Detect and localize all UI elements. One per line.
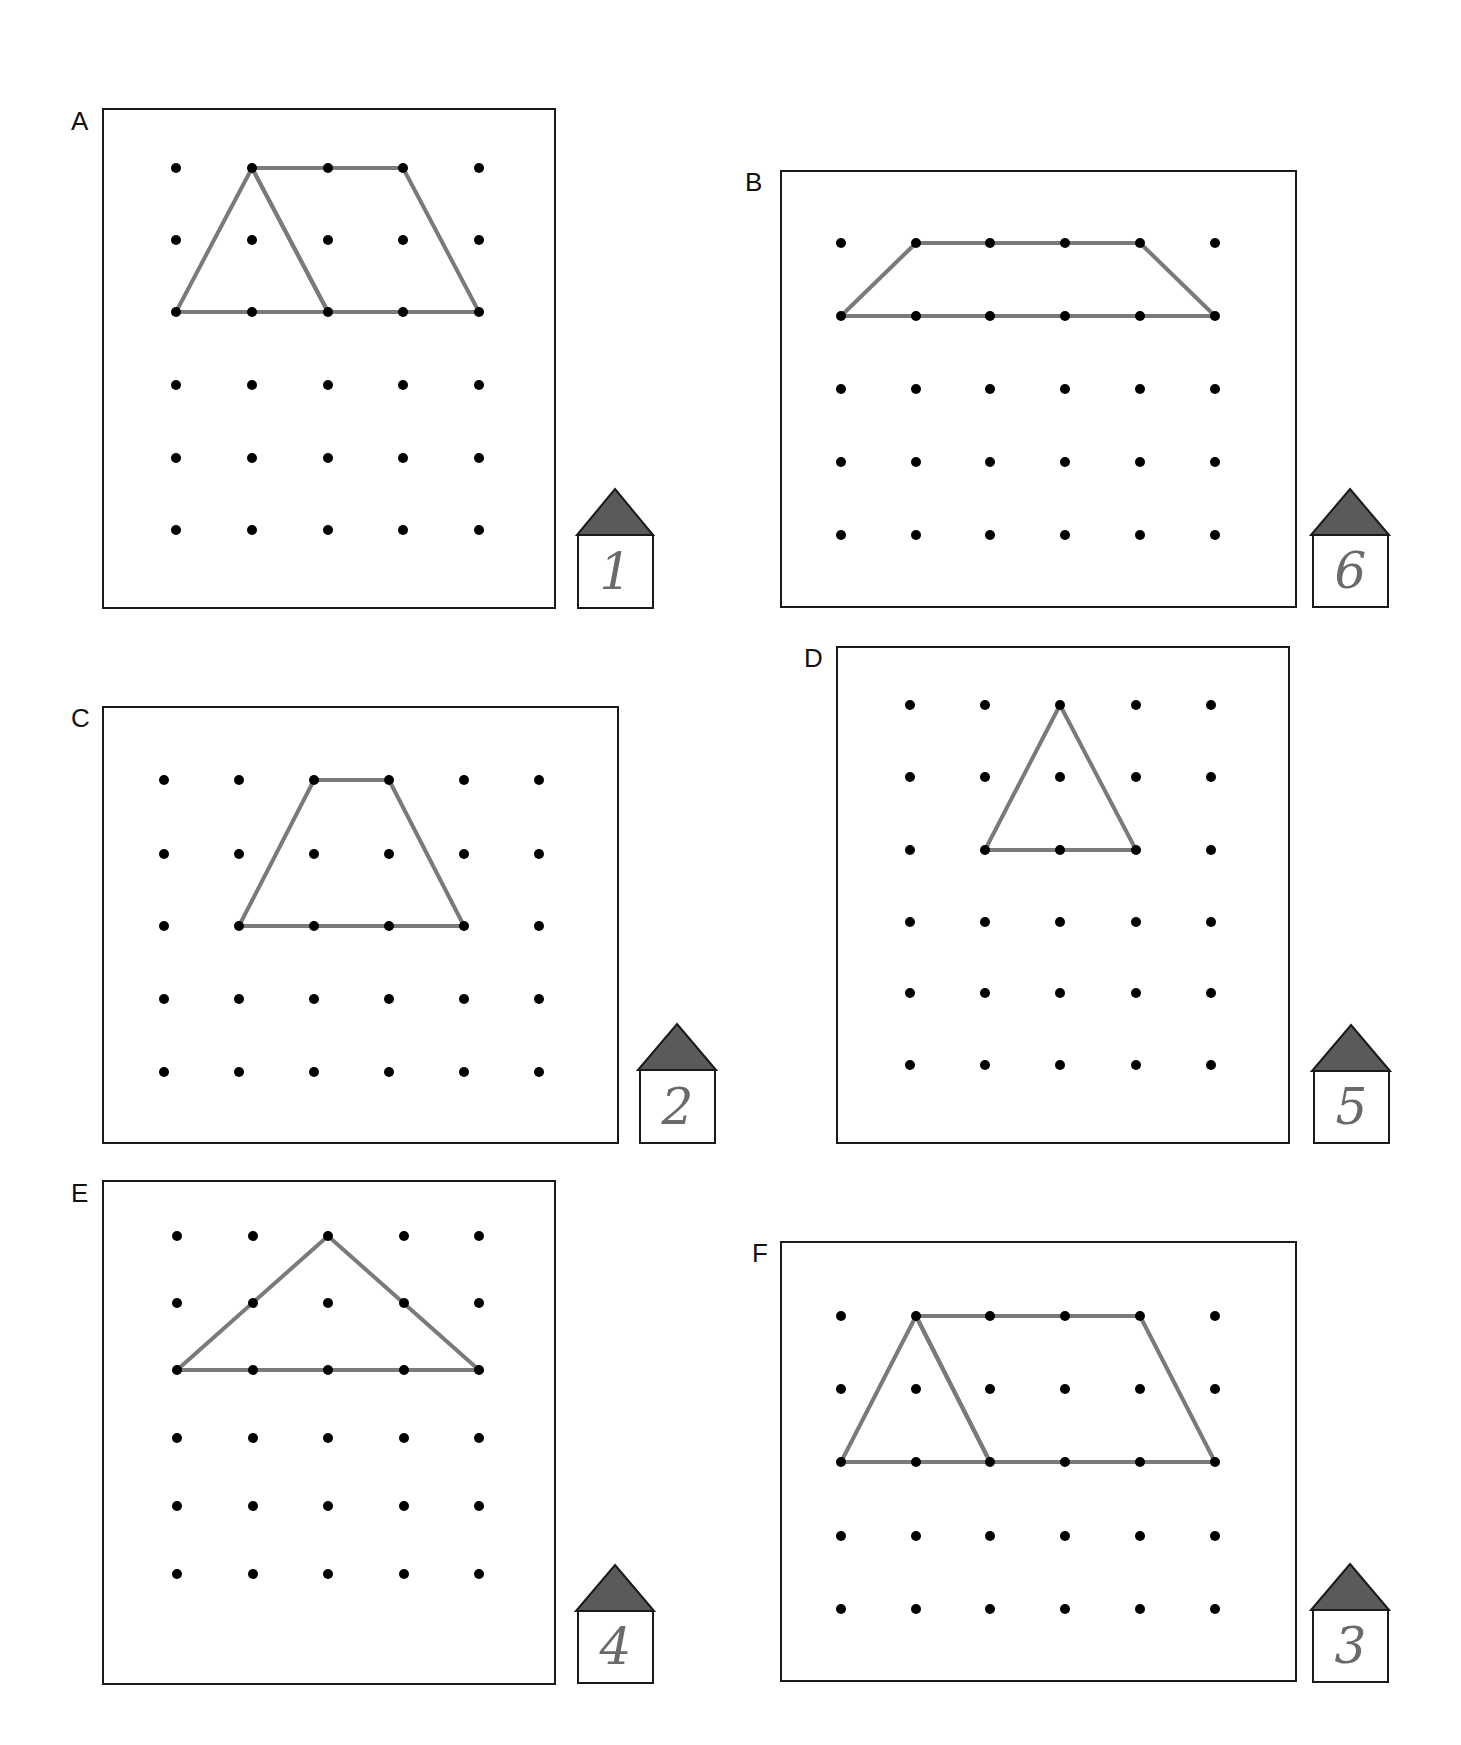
roof-icon	[1309, 487, 1391, 537]
answer-number-e: 4	[600, 1622, 632, 1672]
answer-box-b[interactable]: 6	[1312, 534, 1389, 608]
geoboard-b	[780, 170, 1297, 608]
geoboard-c	[102, 706, 619, 1144]
answer-number-f: 3	[1335, 1621, 1367, 1671]
roof-icon	[575, 487, 655, 537]
geoboard-e	[102, 1180, 556, 1685]
answer-house-f[interactable]: 3	[1309, 1562, 1391, 1683]
geoboard-d	[836, 646, 1290, 1144]
answer-house-c[interactable]: 2	[636, 1022, 718, 1144]
panel-label-d: D	[804, 643, 823, 674]
answer-house-a[interactable]: 1	[575, 487, 655, 609]
answer-number-b: 6	[1335, 546, 1367, 596]
panel-label-c: C	[71, 703, 90, 734]
answer-box-d[interactable]: 5	[1313, 1070, 1390, 1144]
answer-box-f[interactable]: 3	[1312, 1609, 1389, 1683]
roof-icon	[574, 1563, 656, 1613]
geoboard-a	[102, 108, 556, 609]
panel-label-f: F	[752, 1238, 768, 1269]
roof-icon	[1310, 1023, 1392, 1073]
panel-label-b: B	[745, 167, 762, 198]
answer-box-c[interactable]: 2	[639, 1069, 716, 1144]
answer-number-a: 1	[600, 547, 632, 597]
answer-house-d[interactable]: 5	[1310, 1023, 1392, 1144]
answer-house-e[interactable]: 4	[574, 1563, 656, 1684]
panel-label-a: A	[71, 106, 88, 137]
roof-icon	[1309, 1562, 1391, 1612]
roof-icon	[636, 1022, 718, 1072]
answer-number-c: 2	[662, 1082, 694, 1132]
geoboard-f	[780, 1241, 1297, 1682]
panel-label-e: E	[71, 1178, 88, 1209]
answer-box-e[interactable]: 4	[577, 1610, 654, 1684]
answer-box-a[interactable]: 1	[577, 534, 654, 609]
answer-number-d: 5	[1336, 1082, 1368, 1132]
answer-house-b[interactable]: 6	[1309, 487, 1391, 608]
